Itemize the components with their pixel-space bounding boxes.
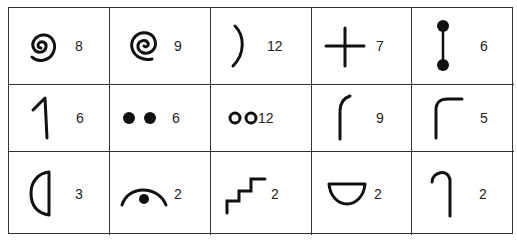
- bowl-half-circle-icon: [326, 180, 370, 208]
- spiral-clockwise-icon: [122, 24, 166, 68]
- symbol-count: 12: [267, 38, 283, 54]
- dumbbell-vertical-icon: [428, 18, 458, 74]
- curved-hook-left-icon: [332, 93, 362, 143]
- grid-cell: 9: [110, 8, 211, 85]
- symbol-count: 9: [376, 110, 384, 126]
- symbol-count: 7: [376, 38, 384, 54]
- grid-cell: 6: [110, 85, 211, 152]
- symbol-count: 2: [174, 186, 182, 202]
- symbol-count: 2: [479, 186, 487, 202]
- angled-one-stroke-icon: [29, 94, 59, 142]
- spiral-counterclockwise-icon: [19, 24, 63, 68]
- symbol-count: 6: [480, 38, 488, 54]
- grid-cell: 12: [211, 8, 312, 85]
- symbol-count: 6: [172, 110, 180, 126]
- plus-cross-icon: [322, 24, 366, 68]
- symbol-frequency-grid: 8 9 12 7 6 6: [8, 7, 513, 234]
- symbol-count: 9: [174, 38, 182, 54]
- hook-cane-icon: [428, 168, 462, 220]
- grid-cell: 5: [412, 85, 514, 152]
- grid-cell: 3: [9, 152, 110, 235]
- symbol-count: 8: [75, 38, 83, 54]
- symbol-count: 6: [76, 110, 84, 126]
- two-filled-dots-icon: [122, 110, 162, 126]
- grid-cell: 2: [110, 152, 211, 235]
- grid-cell: 12: [211, 85, 312, 152]
- grid-cell: 2: [312, 152, 412, 235]
- symbol-count: 3: [75, 186, 83, 202]
- corner-bend-icon: [428, 94, 468, 142]
- grid-cell: 2: [412, 152, 514, 235]
- symbol-count: 2: [374, 186, 382, 202]
- grid-cell: 8: [9, 8, 110, 85]
- symbol-count: 5: [480, 110, 488, 126]
- grid-cell: 2: [211, 152, 312, 235]
- grid-cell: 7: [312, 8, 412, 85]
- grid-cell: 6: [412, 8, 514, 85]
- symbol-count: 2: [271, 186, 279, 202]
- right-parenthesis-arc-icon: [225, 22, 255, 70]
- half-circle-left-icon: [27, 169, 57, 219]
- symbol-count: 12: [258, 110, 274, 126]
- grid-cell: 9: [312, 85, 412, 152]
- grid-cell: 6: [9, 85, 110, 152]
- arc-with-dot-icon: [118, 179, 172, 209]
- staircase-icon: [223, 171, 271, 217]
